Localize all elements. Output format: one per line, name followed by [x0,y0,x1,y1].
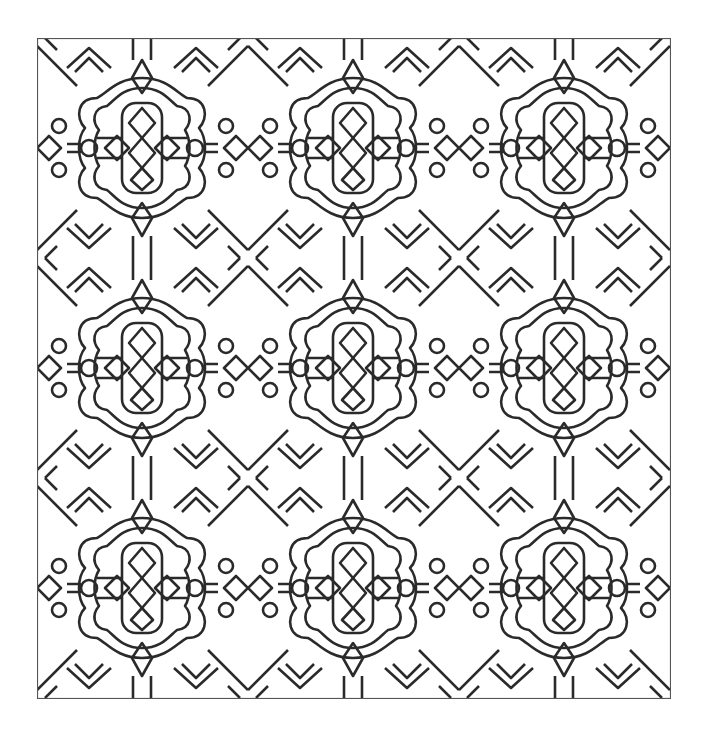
coloring-pattern-artwork [37,38,671,699]
pattern-fill [37,38,671,699]
